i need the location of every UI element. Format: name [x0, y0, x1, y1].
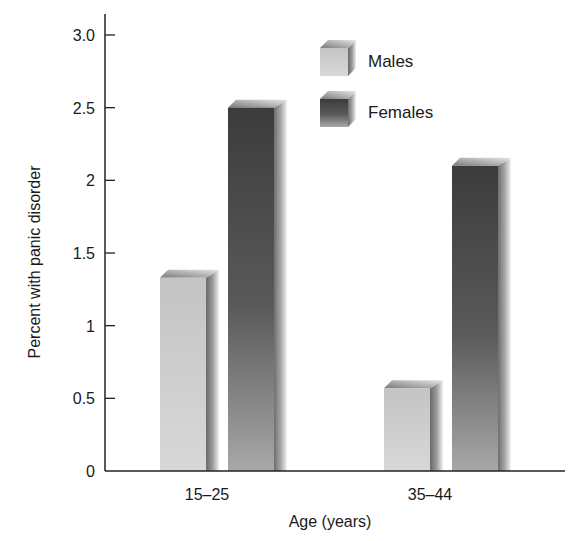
y-tick-label: 2 [86, 172, 95, 189]
x-category-label: 15–25 [185, 486, 230, 503]
y-axis-title: Percent with panic disorder [26, 165, 43, 359]
legend: MalesFemales [320, 40, 433, 127]
x-category-label: 35–44 [408, 486, 453, 503]
bar-males-2 [384, 380, 443, 471]
legend-swatch [320, 99, 348, 127]
bar-females-1 [228, 100, 287, 471]
legend-item-females: Females [320, 91, 433, 127]
y-tick-label: 0 [86, 463, 95, 480]
y-tick-label: 1 [86, 318, 95, 335]
y-tick-label: 3.0 [73, 27, 95, 44]
y-tick-label: 1.5 [73, 245, 95, 262]
bar-females-2 [452, 158, 511, 471]
x-axis-title: Age (years) [289, 513, 372, 530]
y-tick-label: 2.5 [73, 100, 95, 117]
legend-item-males: Males [320, 40, 413, 76]
legend-label: Males [368, 52, 413, 71]
y-tick-label: 0.5 [73, 390, 95, 407]
legend-swatch [320, 48, 348, 76]
bar-males-1 [160, 270, 219, 471]
legend-label: Females [368, 103, 433, 122]
bars-layer [160, 100, 511, 471]
panic-disorder-bar-chart: 00.511.522.53.015–2535–44Age (years)Perc… [0, 0, 584, 541]
